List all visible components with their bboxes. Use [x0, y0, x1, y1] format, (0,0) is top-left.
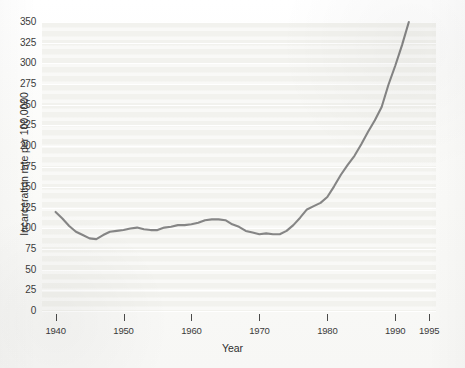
y-tick-label-325: 325: [6, 37, 36, 48]
x-axis-title: Year: [0, 342, 465, 354]
y-tick-label-350: 350: [6, 16, 36, 27]
x-tick-1960: [191, 314, 192, 321]
x-tick-label-1970: 1970: [242, 325, 276, 336]
x-tick-label-1990: 1990: [378, 325, 412, 336]
y-tick-label-0: 0: [6, 305, 36, 316]
line-chart-svg: [0, 0, 465, 368]
x-tick-label-1950: 1950: [107, 325, 141, 336]
x-tick-1980: [327, 314, 328, 321]
x-tick-1990: [395, 314, 396, 321]
scanned-page: 0255075100125150175200225250275300325350…: [0, 0, 465, 368]
x-tick-1995: [429, 314, 430, 321]
x-tick-label-1960: 1960: [174, 325, 208, 336]
chart-figure: 0255075100125150175200225250275300325350…: [0, 0, 465, 368]
x-tick-1970: [259, 314, 260, 321]
x-tick-label-1995: 1995: [412, 325, 446, 336]
x-tick-1950: [124, 314, 125, 321]
series-line-incarceration-rate: [56, 22, 409, 239]
x-tick-label-1940: 1940: [39, 325, 73, 336]
y-axis-title: Incarceration rate per 100,0000: [18, 54, 30, 274]
y-tick-label-25: 25: [6, 284, 36, 295]
x-tick-1940: [56, 314, 57, 321]
x-tick-label-1980: 1980: [310, 325, 344, 336]
